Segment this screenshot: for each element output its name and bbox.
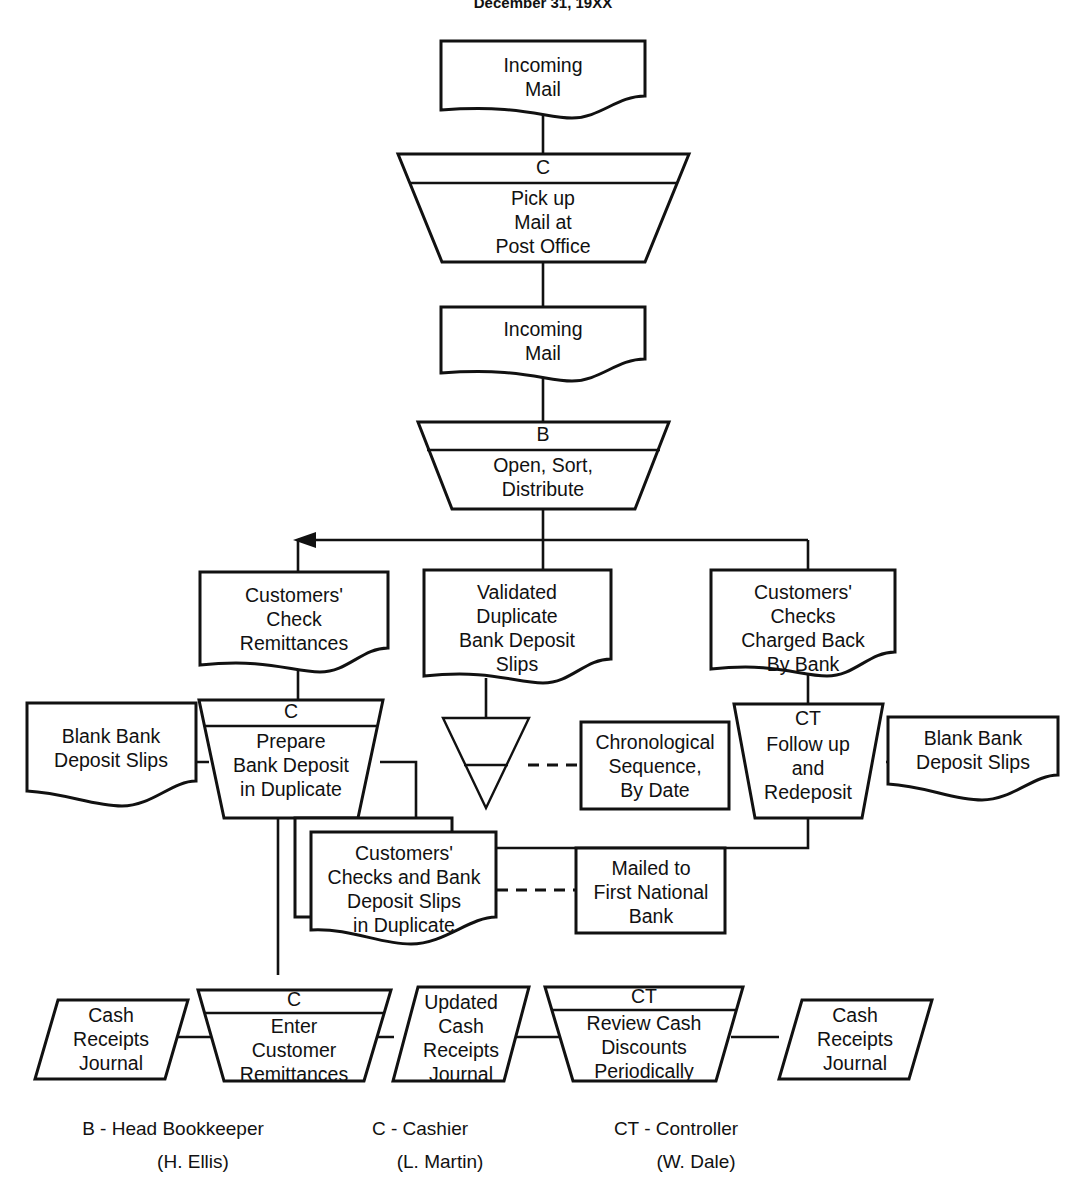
node-customers-checks-and-slips[interactable]: Customers' Checks and Bank Deposit Slips… <box>295 818 496 944</box>
node-label-line: Mail at <box>514 211 572 233</box>
node-label-line: Checks <box>770 605 835 627</box>
flowchart-canvas: December 31, 19XX <box>0 0 1085 1192</box>
node-label-line: Validated <box>477 581 557 603</box>
node-mailed-to-bank[interactable]: Mailed to First National Bank <box>576 848 725 933</box>
node-label-line: Incoming <box>503 318 582 340</box>
node-customers-check-remittances[interactable]: Customers' Check Remittances <box>200 572 388 672</box>
node-updated-cash-receipts-journal[interactable]: Updated Cash Receipts Journal <box>393 987 529 1085</box>
node-role-code: CT <box>631 985 657 1007</box>
node-prepare-bank-deposit[interactable]: C Prepare Bank Deposit in Duplicate <box>199 700 383 818</box>
node-label-line: Deposit Slips <box>916 751 1030 773</box>
node-label-line: Mail <box>525 342 561 364</box>
node-label-line: Updated <box>424 991 498 1013</box>
node-label-line: Post Office <box>495 235 590 257</box>
legend-code: B - Head Bookkeeper <box>82 1118 264 1139</box>
legend-person: (L. Martin) <box>397 1151 484 1172</box>
node-label-line: Sequence, <box>608 755 701 777</box>
node-follow-up-redeposit[interactable]: CT Follow up and Redeposit <box>734 704 883 818</box>
node-label-line: Cash <box>832 1004 878 1026</box>
node-label-line: Cash <box>438 1015 484 1037</box>
node-role-code: CT <box>795 707 821 729</box>
node-incoming-mail-2[interactable]: Incoming Mail <box>441 307 645 381</box>
node-label-line: Customers' <box>355 842 453 864</box>
node-label-line: Mailed to <box>611 857 690 879</box>
node-label-line: Periodically <box>594 1060 694 1082</box>
node-label-line: Discounts <box>601 1036 687 1058</box>
node-cash-receipts-journal-left[interactable]: Cash Receipts Journal <box>35 1000 188 1079</box>
node-validated-duplicate-slips[interactable]: Validated Duplicate Bank Deposit Slips <box>424 570 611 683</box>
node-label-line: Open, Sort, <box>493 454 593 476</box>
node-label-line: Slips <box>496 653 539 675</box>
node-label-line: Receipts <box>73 1028 149 1050</box>
node-label-line: Journal <box>79 1052 143 1074</box>
node-label-line: Blank Bank <box>62 725 161 747</box>
node-blank-bank-deposit-slips-right[interactable]: Blank Bank Deposit Slips <box>888 717 1058 800</box>
node-label-line: Bank Deposit <box>459 629 576 651</box>
node-label-line: Mail <box>525 78 561 100</box>
node-enter-customer-remittances[interactable]: C Enter Customer Remittances <box>198 988 391 1085</box>
node-label-line: Remittances <box>240 632 349 654</box>
node-role-code: B <box>536 423 549 445</box>
node-label-line: Receipts <box>423 1039 499 1061</box>
node-label-line: Enter <box>271 1015 318 1037</box>
node-label-line: Journal <box>429 1063 493 1085</box>
node-chronological-sequence[interactable]: Chronological Sequence, By Date <box>581 722 729 809</box>
node-label-line: in Duplicate <box>353 914 455 936</box>
node-label-line: Journal <box>823 1052 887 1074</box>
node-file-triangle[interactable] <box>443 718 529 808</box>
node-customers-checks-charged-back[interactable]: Customers' Checks Charged Back By Bank <box>711 570 895 676</box>
legend-person: (H. Ellis) <box>157 1151 229 1172</box>
node-label-line: Receipts <box>817 1028 893 1050</box>
node-label-line: Deposit Slips <box>54 749 168 771</box>
node-label-line: Charged Back <box>741 629 865 651</box>
node-label-line: Checks and Bank <box>328 866 481 888</box>
node-label-line: Follow up <box>766 733 850 755</box>
node-label-line: Customer <box>252 1039 337 1061</box>
node-label-line: By Bank <box>767 653 840 675</box>
legend-person: (W. Dale) <box>656 1151 735 1172</box>
node-role-code: C <box>536 156 550 178</box>
node-label-line: Prepare <box>256 730 325 752</box>
legend: B - Head Bookkeeper (H. Ellis) C - Cashi… <box>82 1118 739 1172</box>
node-label-line: Bank Deposit <box>233 754 350 776</box>
node-role-code: C <box>287 988 301 1010</box>
node-label-line: First National <box>594 881 709 903</box>
node-label-line: Pick up <box>511 187 575 209</box>
legend-code: CT - Controller <box>614 1118 739 1139</box>
connector-followup-to-checksslips <box>466 818 808 848</box>
node-label-line: Cash <box>88 1004 134 1026</box>
node-open-sort-distribute[interactable]: B Open, Sort, Distribute <box>418 422 669 509</box>
node-label-line: Blank Bank <box>924 727 1023 749</box>
node-label-line: Review Cash <box>587 1012 702 1034</box>
page-title: December 31, 19XX <box>474 0 612 11</box>
node-pick-up-mail[interactable]: C Pick up Mail at Post Office <box>398 154 689 262</box>
node-label-line: Duplicate <box>476 605 557 627</box>
node-label-line: and <box>792 757 825 779</box>
node-label-line: in Duplicate <box>240 778 342 800</box>
node-label-line: Incoming <box>503 54 582 76</box>
node-label-line: Customers' <box>245 584 343 606</box>
flowchart-page: December 31, 19XX <box>0 0 1085 1192</box>
legend-code: C - Cashier <box>372 1118 469 1139</box>
node-label-line: Chronological <box>595 731 714 753</box>
node-cash-receipts-journal-right[interactable]: Cash Receipts Journal <box>779 1000 932 1079</box>
node-label-line: Distribute <box>502 478 584 500</box>
node-label-line: Check <box>266 608 322 630</box>
node-incoming-mail-1[interactable]: Incoming Mail <box>441 41 645 118</box>
arrowhead-distribution-bus <box>293 532 316 548</box>
node-label-line: By Date <box>620 779 689 801</box>
node-blank-bank-deposit-slips-left[interactable]: Blank Bank Deposit Slips <box>27 703 196 806</box>
node-label-line: Deposit Slips <box>347 890 461 912</box>
node-review-cash-discounts[interactable]: CT Review Cash Discounts Periodically <box>545 985 743 1082</box>
node-label-line: Redeposit <box>764 781 852 803</box>
node-role-code: C <box>284 700 298 722</box>
node-label-line: Remittances <box>240 1063 349 1085</box>
node-label-line: Bank <box>629 905 674 927</box>
node-label-line: Customers' <box>754 581 852 603</box>
